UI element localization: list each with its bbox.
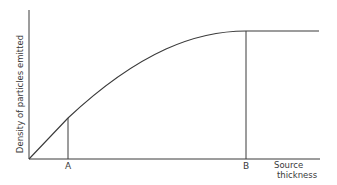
density-vs-thickness-figure: A B Source thickness Density of particle… [0, 0, 337, 185]
x-axis-label-line2: thickness [277, 170, 318, 180]
marker-b-label: B [243, 161, 249, 171]
y-axis-label: Density of particles emitted [15, 35, 25, 153]
chart-svg: A B Source thickness Density of particle… [0, 0, 337, 185]
density-curve [29, 31, 319, 159]
marker-a-label: A [65, 161, 72, 171]
x-axis-label-line1: Source [274, 160, 303, 170]
